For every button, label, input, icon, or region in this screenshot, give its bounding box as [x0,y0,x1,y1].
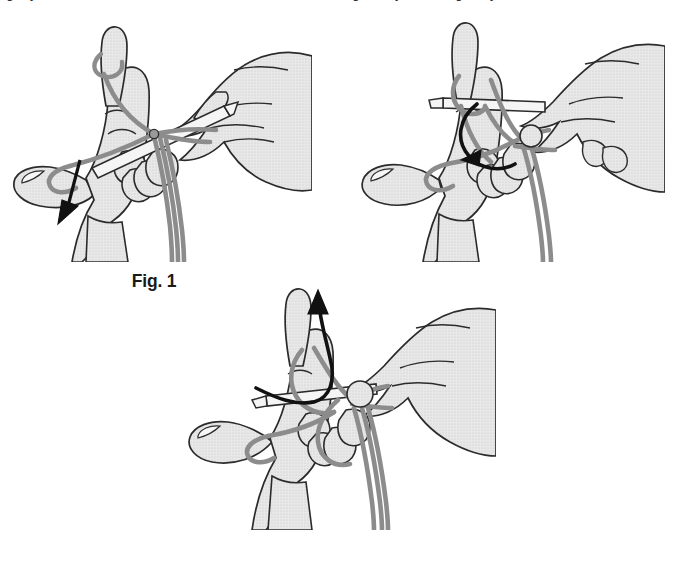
figure-3-illustration [178,282,496,530]
figure-1: Fig. 1 [2,10,312,262]
right-hand [521,45,665,193]
figure-2-illustration [355,10,665,262]
left-hand [189,289,370,530]
truncated-text-above: g y g y g y [0,0,678,9]
figure-3: Fig. 3 [178,282,496,530]
thumb-tip-over-yarn [347,381,373,407]
figure-page: g y g y g y [0,0,678,567]
thumb-tip-over-yarn [520,125,542,147]
figure-2: Fig. 2 [355,10,665,262]
yarn-crossing-point [149,129,158,138]
figure-1-illustration [2,10,312,262]
